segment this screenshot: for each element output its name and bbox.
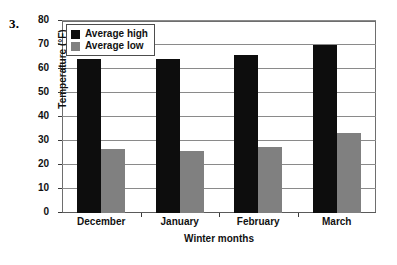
y-axis-tick-label: 80 [9,15,49,25]
y-axis-tick-label: 20 [9,159,49,169]
bar-january-average-high [156,59,180,213]
x-axis-tick-label: February [219,217,298,227]
y-axis-tick-label: 60 [9,63,49,73]
y-axis-tick-label: 70 [9,39,49,49]
y-axis-tick-label: 40 [9,111,49,121]
y-axis-tick [58,164,62,165]
bar-march-average-low [337,133,361,213]
y-axis-tick [58,212,62,213]
legend-label: Average high [85,29,148,39]
y-axis-tick-label: 30 [9,135,49,145]
bar-january-average-low [180,151,204,213]
figure: 3. 80706050403020100 Temperature (°F) De… [0,0,397,265]
legend-item: Average low [71,40,148,52]
x-axis-tick-label: December [62,217,141,227]
bar-february-average-high [234,55,258,213]
bar-february-average-low [258,147,282,213]
y-axis-tick-label: 10 [9,183,49,193]
bar-december-average-high [77,59,101,213]
y-axis-tick [58,140,62,141]
x-axis-tick-label: January [141,217,220,227]
bar-march-average-high [313,45,337,213]
y-axis-tick-label: 50 [9,87,49,97]
legend-swatch-icon [71,42,80,51]
legend-label: Average low [85,41,144,51]
chart-legend: Average highAverage low [66,24,155,56]
bar-december-average-low [101,149,125,213]
x-axis-title: Winter months [62,234,376,244]
legend-item: Average high [71,28,148,40]
legend-swatch-icon [71,30,80,39]
gridline [62,20,376,21]
bar-chart: 80706050403020100 Temperature (°F) Decem… [62,21,376,213]
y-axis-title: Temperature (°F) [58,0,68,139]
y-axis-tick [58,188,62,189]
y-axis-tick-label: 0 [9,207,49,217]
x-axis-tick-label: March [298,217,377,227]
